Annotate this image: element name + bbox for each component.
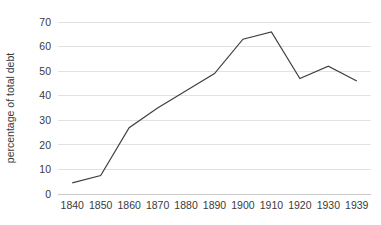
y-axis-tick-label: 10 (39, 163, 51, 175)
line-chart: 010203040506070 184018501860187018801890… (0, 0, 381, 225)
gridlines (58, 22, 371, 169)
y-axis-tick-label: 60 (39, 40, 51, 52)
x-axis-tick-label: 1939 (345, 199, 369, 211)
y-axis-tick-label: 50 (39, 65, 51, 77)
x-axis-tick-label: 1920 (288, 199, 312, 211)
data-series-line (72, 32, 357, 183)
x-axis-tick-label: 1880 (174, 199, 198, 211)
x-axis-tick-label: 1930 (317, 199, 341, 211)
y-axis-tick-label: 0 (45, 188, 51, 200)
x-axis-tick-label: 1850 (89, 199, 113, 211)
y-axis-tick-label: 70 (39, 16, 51, 28)
x-axis-tick-label: 1870 (146, 199, 170, 211)
x-axis-tick-label: 1860 (117, 199, 141, 211)
y-axis-title: percentage of total debt (4, 53, 16, 163)
y-axis-tick-label: 40 (39, 89, 51, 101)
x-axis-tick-labels: 1840185018601870188018901900191019201930… (61, 199, 369, 211)
y-axis-tick-label: 30 (39, 114, 51, 126)
chart-canvas: 010203040506070 184018501860187018801890… (0, 0, 381, 225)
x-axis-tick-label: 1890 (203, 199, 227, 211)
x-axis-tick-label: 1910 (260, 199, 284, 211)
y-axis-tick-label: 20 (39, 139, 51, 151)
x-axis-tick-label: 1900 (231, 199, 255, 211)
x-axis-tick-label: 1840 (61, 199, 85, 211)
y-axis-tick-labels: 010203040506070 (39, 16, 51, 200)
